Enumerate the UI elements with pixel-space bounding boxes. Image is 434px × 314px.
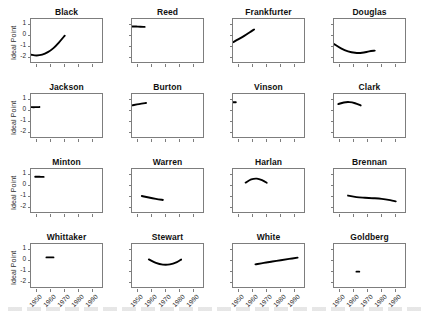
series-line-goldberg	[334, 244, 407, 289]
x-tick-mark	[151, 64, 152, 67]
x-tick-mark	[165, 64, 166, 67]
x-tick-mark	[64, 139, 65, 142]
y-tick-mark	[28, 271, 31, 272]
x-tick-mark	[151, 139, 152, 142]
y-tick-mark	[28, 282, 31, 283]
plot-area-warren	[131, 168, 204, 213]
y-tick-mark	[331, 24, 334, 25]
x-tick-mark	[252, 289, 253, 292]
plot-area-burton	[131, 93, 204, 138]
plot-area-frankfurter	[232, 18, 305, 63]
panel-jackson: Jackson10-1-2Ideal Point	[0, 82, 103, 168]
y-tick-mark	[331, 121, 334, 122]
panel-title-goldberg: Goldberg	[333, 232, 406, 242]
y-tick-mark	[28, 110, 31, 111]
y-tick-mark	[129, 110, 132, 111]
y-tick-mark	[129, 174, 132, 175]
y-tick-mark	[28, 196, 31, 197]
y-tick-mark	[230, 196, 233, 197]
panel-title-frankfurter: Frankfurter	[232, 7, 305, 17]
y-tick-mark	[129, 207, 132, 208]
y-tick-mark	[28, 185, 31, 186]
series-line-clark	[334, 94, 407, 139]
panel-title-clark: Clark	[333, 82, 406, 92]
y-tick-mark	[28, 174, 31, 175]
series-line-jackson	[31, 94, 104, 139]
x-tick-mark	[78, 139, 79, 142]
x-tick-mark	[252, 64, 253, 67]
plot-area-white	[232, 243, 305, 288]
x-tick-mark	[165, 139, 166, 142]
x-tick-mark	[339, 214, 340, 217]
y-tick-mark	[129, 46, 132, 47]
y-tick-mark	[230, 46, 233, 47]
x-tick-mark	[367, 64, 368, 67]
y-tick-mark	[331, 35, 334, 36]
panel-burton: Burton	[101, 82, 204, 168]
plot-area-reed	[131, 18, 204, 63]
x-tick-mark	[353, 64, 354, 67]
y-tick-mark	[129, 271, 132, 272]
x-tick-mark	[179, 139, 180, 142]
x-tick-mark	[64, 289, 65, 292]
x-tick-mark	[367, 289, 368, 292]
x-tick-mark	[395, 139, 396, 142]
x-tick-mark	[36, 289, 37, 292]
x-tick-mark	[50, 214, 51, 217]
x-tick-mark	[395, 214, 396, 217]
y-tick-mark	[129, 24, 132, 25]
y-tick-mark	[28, 260, 31, 261]
panel-harlan: Harlan	[202, 157, 305, 243]
panel-title-burton: Burton	[131, 82, 204, 92]
y-tick-mark	[230, 99, 233, 100]
x-tick-mark	[238, 139, 239, 142]
y-tick-mark	[129, 249, 132, 250]
y-tick-mark	[129, 121, 132, 122]
x-tick-mark	[353, 289, 354, 292]
panel-title-stewart: Stewart	[131, 232, 204, 242]
y-axis-label: Ideal Point	[10, 101, 17, 135]
plot-area-vinson	[232, 93, 305, 138]
x-tick-mark	[78, 289, 79, 292]
y-tick-mark	[129, 132, 132, 133]
x-tick-mark	[92, 139, 93, 142]
y-tick-mark	[28, 99, 31, 100]
x-tick-mark	[193, 214, 194, 217]
y-tick-mark	[230, 185, 233, 186]
panel-reed: Reed	[101, 7, 204, 93]
y-tick-mark	[230, 174, 233, 175]
y-tick-mark	[230, 132, 233, 133]
x-tick-mark	[137, 139, 138, 142]
y-tick-mark	[28, 207, 31, 208]
series-line-harlan	[233, 169, 306, 214]
x-tick-mark	[280, 139, 281, 142]
x-tick-mark	[266, 214, 267, 217]
series-line-black	[31, 19, 104, 64]
x-tick-mark	[36, 139, 37, 142]
plot-area-minton	[30, 168, 103, 213]
panel-title-minton: Minton	[30, 157, 103, 167]
y-tick-mark	[129, 282, 132, 283]
y-tick-mark	[28, 132, 31, 133]
series-line-burton	[132, 94, 205, 139]
x-tick-mark	[280, 64, 281, 67]
y-tick-mark	[331, 110, 334, 111]
x-tick-mark	[165, 214, 166, 217]
y-tick-mark	[230, 271, 233, 272]
y-tick-mark	[129, 185, 132, 186]
y-tick-mark	[331, 174, 334, 175]
x-tick-mark	[381, 289, 382, 292]
y-tick-mark	[28, 24, 31, 25]
series-line-stewart	[132, 244, 205, 289]
x-tick-mark	[294, 139, 295, 142]
x-tick-mark	[50, 139, 51, 142]
y-tick-mark	[331, 282, 334, 283]
panel-title-white: White	[232, 232, 305, 242]
x-tick-mark	[367, 139, 368, 142]
y-tick-mark	[28, 35, 31, 36]
y-tick-mark	[28, 57, 31, 58]
y-tick-mark	[331, 132, 334, 133]
x-tick-mark	[395, 289, 396, 292]
plot-area-harlan	[232, 168, 305, 213]
x-tick-mark	[266, 289, 267, 292]
